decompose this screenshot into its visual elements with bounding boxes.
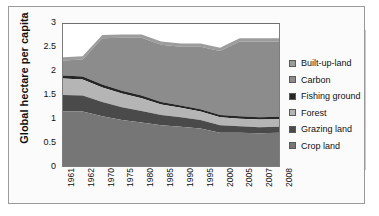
legend-item: Fishing ground: [289, 88, 375, 105]
legend-item: Crop land: [289, 138, 375, 155]
legend-label: Built-up-land: [301, 58, 352, 68]
chart-legend: Built-up-landCarbonFishing groundForestG…: [289, 55, 375, 154]
legend-swatch-icon: [289, 76, 296, 83]
y-axis-tick: 1.5: [30, 90, 56, 99]
legend-label: Forest: [301, 108, 327, 118]
stacked-area-svg: [63, 24, 279, 166]
chart-container: Global hectare per capita 32.521.510.50 …: [0, 0, 379, 216]
legend-label: Fishing ground: [301, 91, 361, 101]
y-axis-tick: 0: [30, 162, 56, 171]
legend-label: Crop land: [301, 141, 340, 151]
legend-swatch-icon: [289, 142, 296, 149]
x-axis-tick: 1990: [185, 168, 195, 208]
y-axis-tick-labels: 32.521.510.50: [28, 0, 56, 216]
legend-item: Grazing land: [289, 121, 375, 138]
y-axis-tick: 2.5: [30, 42, 56, 51]
x-axis-tick: 1961: [66, 168, 76, 208]
y-axis-tick: 2: [30, 66, 56, 75]
y-axis-tick: 1: [30, 114, 56, 123]
x-axis-tick: 1970: [106, 168, 116, 208]
x-axis-tick: 1980: [145, 168, 155, 208]
legend-label: Carbon: [301, 75, 331, 85]
x-axis-tick: 2008: [284, 168, 294, 208]
x-axis-tick: 1995: [205, 168, 215, 208]
x-axis-tick-labels: 1961196219701975198019851990199520002005…: [62, 168, 280, 210]
legend-label: Grazing land: [301, 124, 352, 134]
x-axis-tick: 2005: [244, 168, 254, 208]
x-axis-tick: 2000: [225, 168, 235, 208]
legend-swatch-icon: [289, 126, 296, 133]
x-axis-tick: 1962: [86, 168, 96, 208]
legend-swatch-icon: [289, 60, 296, 67]
plot-area: [62, 23, 280, 167]
legend-item: Built-up-land: [289, 55, 375, 72]
legend-item: Carbon: [289, 72, 375, 89]
legend-swatch-icon: [289, 93, 296, 100]
x-axis-tick: 1975: [125, 168, 135, 208]
x-axis-tick: 2007: [264, 168, 274, 208]
x-axis-tick: 1985: [165, 168, 175, 208]
y-axis-tick: 0.5: [30, 138, 56, 147]
legend-item: Forest: [289, 105, 375, 122]
legend-swatch-icon: [289, 109, 296, 116]
y-axis-tick: 3: [30, 18, 56, 27]
